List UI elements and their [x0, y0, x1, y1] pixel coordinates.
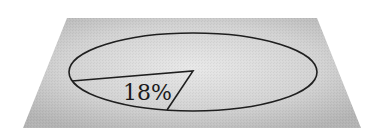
slice-label: 18%: [123, 80, 172, 105]
pie-chart: 18%: [0, 0, 386, 137]
